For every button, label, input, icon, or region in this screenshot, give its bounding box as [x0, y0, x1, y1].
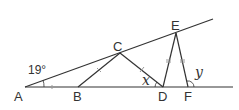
point-label-c: C — [113, 39, 122, 54]
angle-label-19: 19° — [28, 63, 46, 77]
point-label-f: F — [184, 89, 192, 104]
point-label-e: E — [171, 18, 180, 33]
point-label-a: A — [14, 89, 23, 104]
point-label-b: B — [73, 89, 82, 104]
angle-label-x: x — [142, 72, 150, 88]
point-label-d: D — [158, 89, 167, 104]
geometry-diagram: A B C D E F 19° x y — [0, 0, 239, 110]
angle-label-y: y — [194, 64, 204, 80]
angle-arc-x — [155, 82, 157, 87]
angle-arc-a — [43, 80, 44, 87]
